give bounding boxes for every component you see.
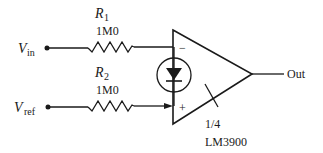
svg-text:V: V [14, 100, 24, 115]
r2-value: 1M0 [96, 83, 119, 97]
svg-text:ref: ref [24, 106, 36, 117]
inverting-sign: − [179, 41, 186, 55]
noninverting-sign: + [179, 101, 186, 115]
svg-text:1: 1 [104, 12, 109, 23]
svg-text:in: in [27, 47, 35, 58]
r2-resistor [88, 101, 134, 111]
circuit-diagram: V in R 1 1M0 V ref R 2 1M0 − + 1/4 LM390… [0, 0, 323, 153]
vin-label: V in [18, 41, 35, 58]
fraction-label: 1/4 [205, 117, 220, 131]
r1-label: R 1 [94, 6, 109, 23]
r1-resistor [88, 42, 134, 52]
diode-icon [157, 47, 191, 106]
output-label: Out [287, 67, 306, 81]
arrow-icon [164, 103, 173, 109]
svg-text:2: 2 [104, 71, 109, 82]
svg-text:R: R [94, 65, 104, 80]
unit-slash-marker [205, 84, 218, 107]
svg-text:R: R [94, 6, 104, 21]
part-label: LM3900 [205, 135, 247, 149]
r1-value: 1M0 [96, 24, 119, 38]
r2-label: R 2 [94, 65, 109, 82]
vref-label: V ref [14, 100, 36, 117]
